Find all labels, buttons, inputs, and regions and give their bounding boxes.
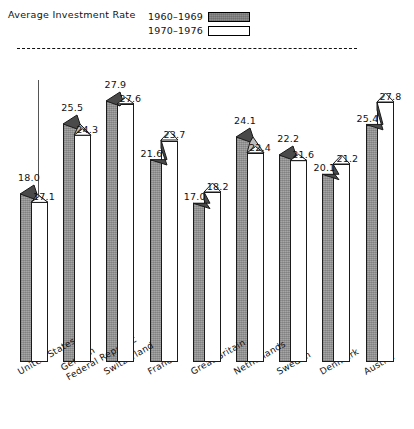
- value-label-1960-1969: 27.9: [104, 79, 126, 90]
- investment-rate-chart: Average Investment Rate 1960–1969 1970–1…: [0, 0, 414, 429]
- value-label-1970-1976: 17.1: [33, 191, 55, 202]
- value-label-1970-1976: 22.4: [249, 142, 271, 153]
- legend-entry-1970-1976: 1970–1976: [148, 20, 250, 34]
- legend-title: Average Investment Rate: [8, 9, 136, 20]
- bar-1970-1976: [74, 135, 91, 362]
- legend-label-1970-1976: 1970–1976: [148, 25, 204, 36]
- white-swatch: [208, 26, 250, 36]
- category-axis-labels: United StatesGermanFederal RepublicSwitz…: [0, 362, 414, 429]
- bar-1970-1976: [333, 164, 350, 362]
- value-label-1960-1969: 20.1: [313, 162, 335, 173]
- value-label-1970-1976: 27.6: [119, 93, 141, 104]
- bar-1970-1976: [161, 141, 178, 363]
- value-label-1970-1976: 24.3: [76, 124, 98, 135]
- value-label-1970-1976: 21.6: [292, 149, 314, 160]
- value-label-1960-1969: 18.0: [18, 172, 40, 183]
- bar-1970-1976: [377, 102, 394, 362]
- value-label-1960-1969: 25.4: [357, 113, 379, 124]
- value-label-1970-1976: 27.8: [380, 91, 402, 102]
- value-label-1970-1976: 21.2: [336, 153, 358, 164]
- value-label-1960-1969: 24.1: [234, 115, 256, 126]
- value-label-1960-1969: 21.6: [141, 148, 163, 159]
- bar-1970-1976: [204, 192, 221, 362]
- chart-legend: Average Investment Rate 1960–1969 1970–1…: [8, 4, 328, 42]
- value-label-1970-1976: 23.7: [164, 129, 186, 140]
- value-label-1960-1969: 22.2: [277, 133, 299, 144]
- legend-entry-1960-1969: 1960–1969: [148, 6, 250, 20]
- value-label-1970-1976: 18.2: [207, 181, 229, 192]
- bar-1970-1976: [117, 104, 134, 362]
- plot-area: 18.017.125.524.327.927.621.623.717.018.2…: [0, 44, 414, 364]
- bar-1970-1976: [247, 153, 264, 362]
- value-label-1960-1969: 25.5: [61, 102, 83, 113]
- bar-1970-1976: [290, 160, 307, 362]
- value-label-1960-1969: 17.0: [184, 191, 206, 202]
- reference-line-dashed: [17, 48, 357, 49]
- bar-1970-1976: [31, 202, 48, 362]
